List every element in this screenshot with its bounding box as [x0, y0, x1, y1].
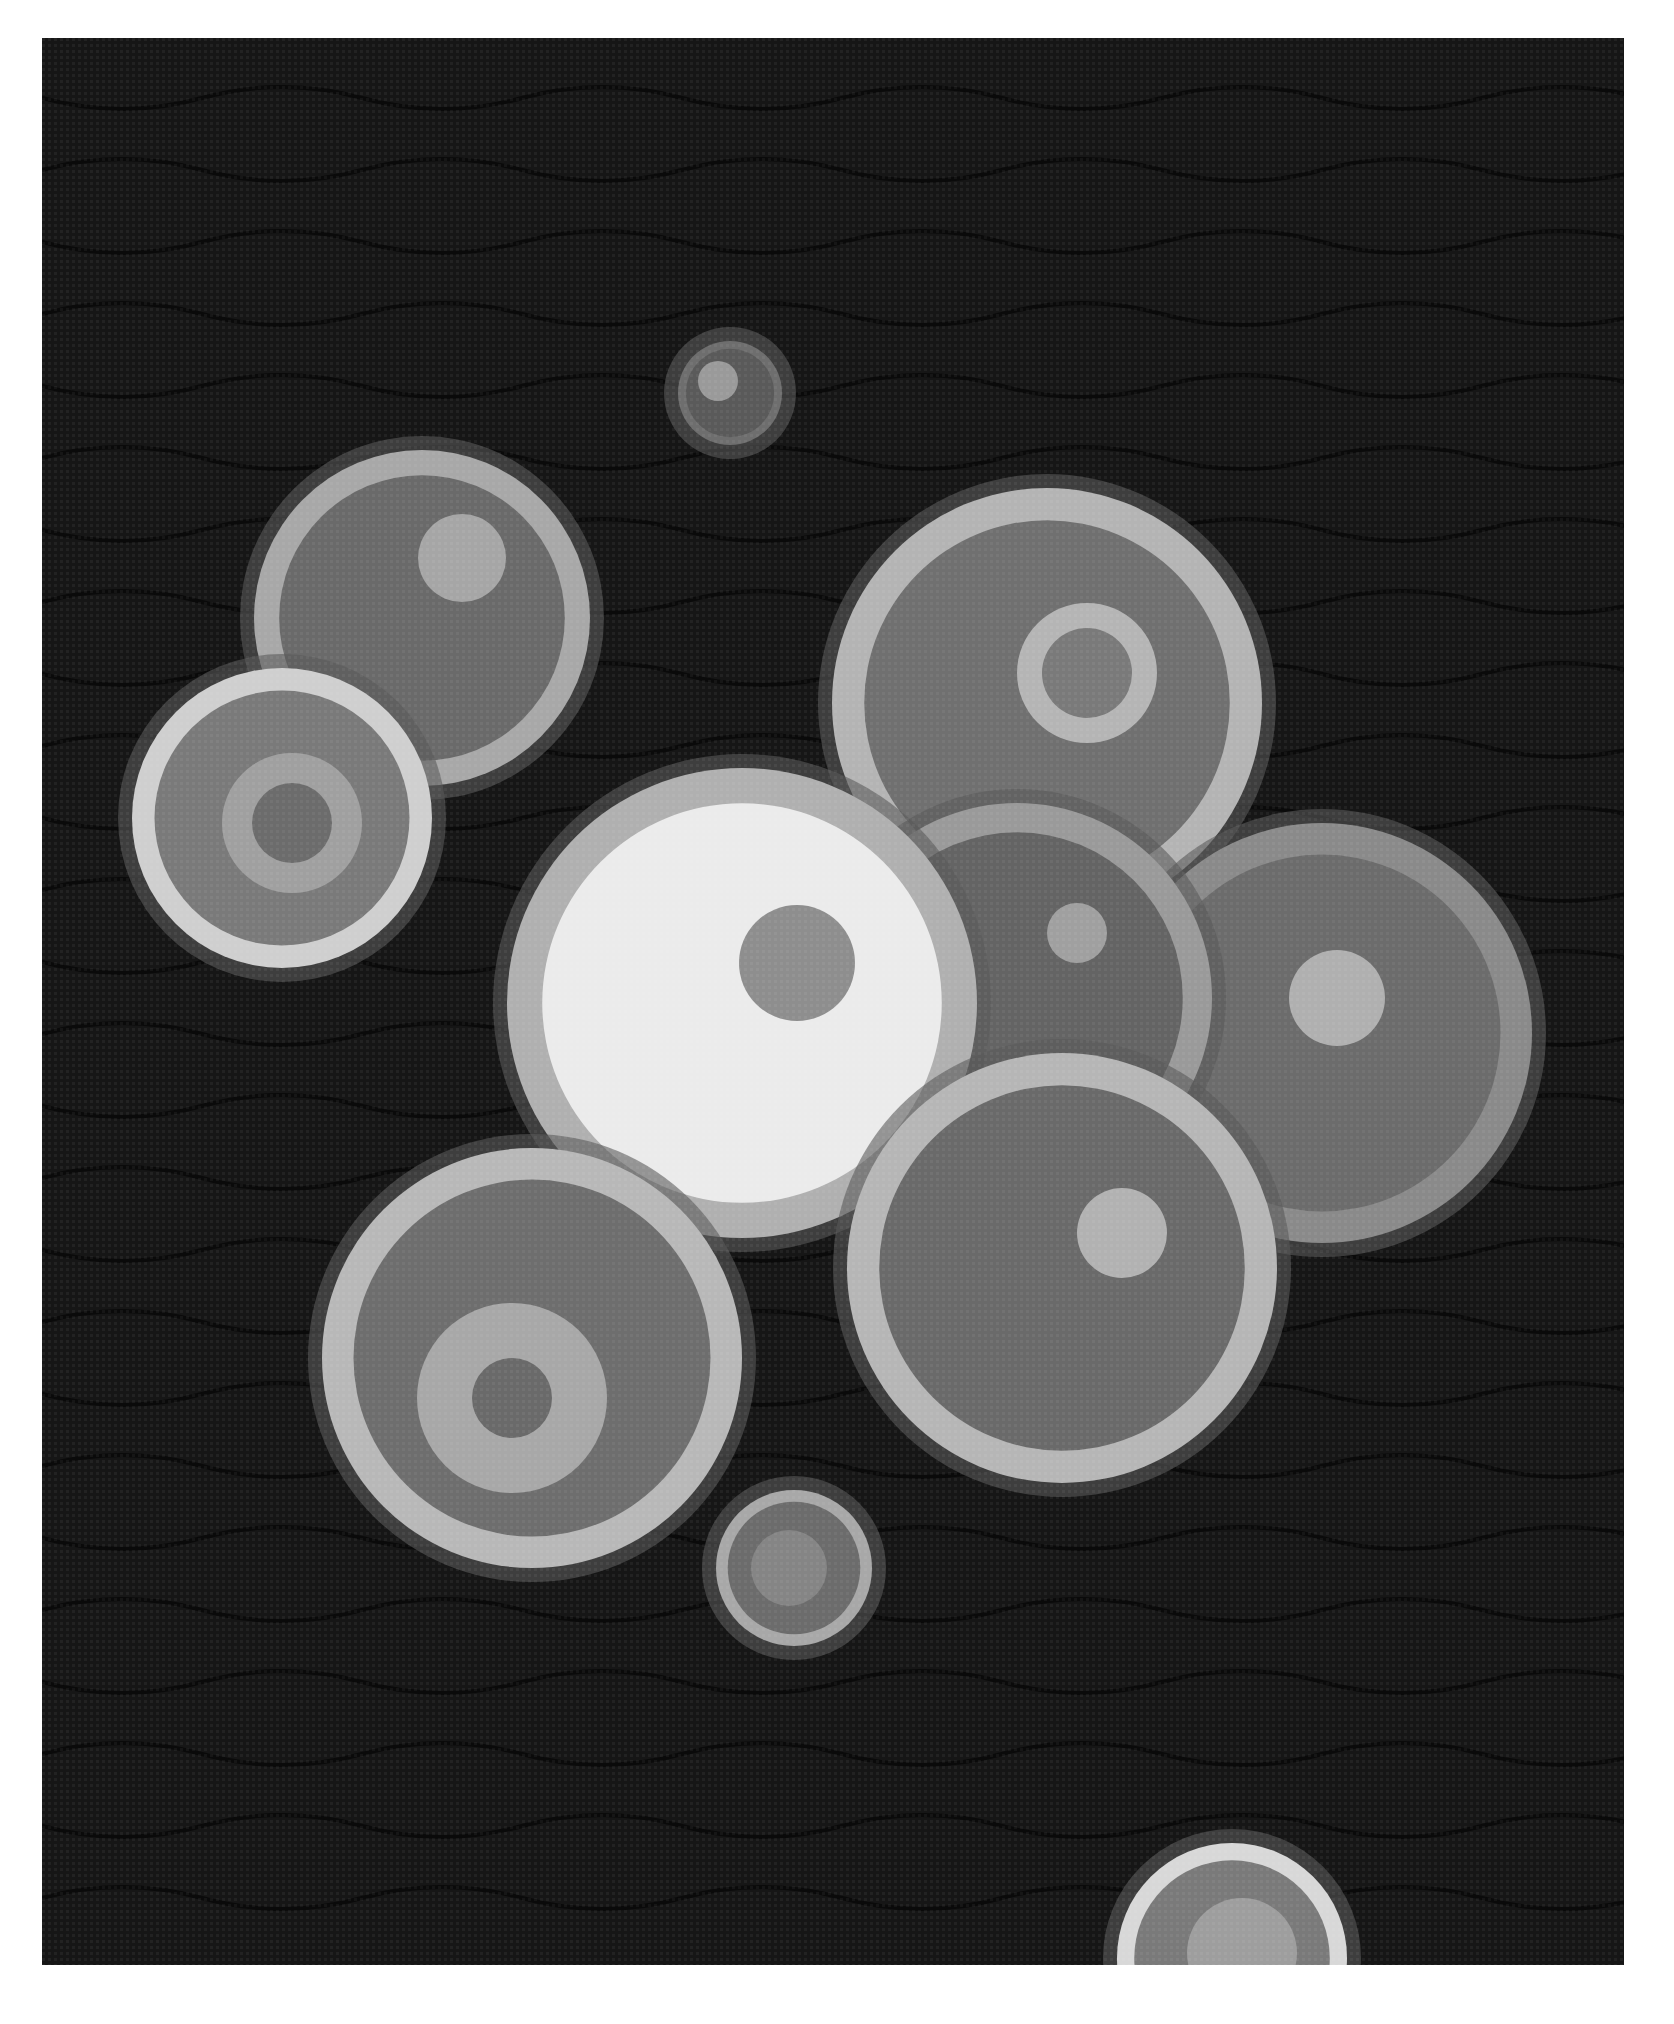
circles-artwork	[42, 38, 1624, 1965]
fabric-artwork	[42, 38, 1624, 1965]
